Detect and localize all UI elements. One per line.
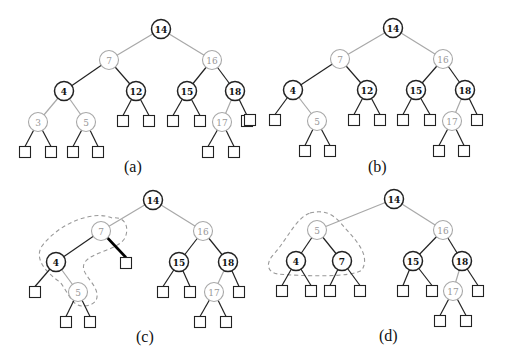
node-key-label: 3 xyxy=(35,118,41,128)
tree-node-7: 7 xyxy=(100,51,119,70)
tree-node-17: 17 xyxy=(443,112,462,131)
tree-node-3: 3 xyxy=(29,113,48,132)
tree-edge xyxy=(317,199,394,230)
tree-node-15: 15 xyxy=(407,81,426,100)
tree-node-17: 17 xyxy=(205,283,224,302)
node-key-label: 7 xyxy=(337,55,343,65)
node-key-label: 4 xyxy=(61,87,67,97)
tree-node-5: 5 xyxy=(69,283,88,302)
nil-leaf-square xyxy=(61,317,72,328)
nil-leaf-square xyxy=(30,287,41,298)
node-key-label: 15 xyxy=(410,86,423,96)
tree-node-14: 14 xyxy=(384,19,403,38)
tree-node-14: 14 xyxy=(385,190,404,209)
tree-node-7: 7 xyxy=(333,252,352,271)
nil-leaf-square xyxy=(398,286,409,297)
node-key-label: 16 xyxy=(206,56,218,66)
nil-leaf-square xyxy=(245,115,256,126)
tree-node-4: 4 xyxy=(284,81,303,100)
panel-caption-0: (a) xyxy=(124,158,142,176)
nil-leaf-square xyxy=(234,287,245,298)
nil-leaf-square xyxy=(195,116,206,127)
node-key-label: 7 xyxy=(98,227,104,237)
tree-node-15: 15 xyxy=(170,253,189,272)
tree-node-4: 4 xyxy=(55,82,74,101)
tree-node-5: 5 xyxy=(77,113,96,132)
node-key-label: 4 xyxy=(290,86,296,96)
tree-node-16: 16 xyxy=(203,51,222,70)
node-key-label: 17 xyxy=(216,118,228,128)
node-key-label: 18 xyxy=(459,86,472,96)
nil-leaf-square xyxy=(277,286,288,297)
node-key-label: 4 xyxy=(293,257,299,267)
nil-leaf-square xyxy=(20,147,31,158)
tree-node-12: 12 xyxy=(127,82,146,101)
tree-node-16: 16 xyxy=(434,221,453,240)
tree-node-12: 12 xyxy=(358,81,377,100)
node-key-label: 4 xyxy=(53,258,59,268)
node-key-label: 15 xyxy=(181,87,194,97)
nil-leaf-square xyxy=(325,286,336,297)
tree-node-17: 17 xyxy=(444,282,463,301)
node-key-label: 16 xyxy=(437,55,449,65)
node-key-label: 15 xyxy=(407,257,420,267)
node-key-label: 14 xyxy=(147,196,160,206)
node-key-label: 14 xyxy=(387,24,400,34)
node-key-label: 12 xyxy=(361,86,374,96)
tree-node-18: 18 xyxy=(453,252,472,271)
nil-leaf-square xyxy=(185,287,196,298)
node-key-label: 5 xyxy=(75,288,81,298)
node-key-label: 14 xyxy=(155,25,168,35)
nil-leaf-square xyxy=(158,287,169,298)
tree-node-7: 7 xyxy=(331,50,350,69)
nil-leaf-square xyxy=(459,146,470,157)
tree-node-16: 16 xyxy=(434,50,453,69)
nil-leaf-square xyxy=(195,317,206,328)
tree-node-5: 5 xyxy=(308,221,327,240)
nil-leaf-square xyxy=(46,147,57,158)
panel-caption-3: (d) xyxy=(379,327,398,345)
nil-leaf-square xyxy=(270,115,281,126)
nil-leaf-square xyxy=(427,286,438,297)
node-key-label: 16 xyxy=(197,227,209,237)
node-key-label: 7 xyxy=(339,257,345,267)
nil-leaf-square xyxy=(221,317,232,328)
nil-leaf-square xyxy=(398,115,409,126)
panel-captions: (a)(b)(c)(d) xyxy=(124,158,398,346)
nil-leaf-square xyxy=(472,115,483,126)
tree-node-4: 4 xyxy=(47,253,66,272)
nil-leaf-square xyxy=(435,316,446,327)
panel-caption-2: (c) xyxy=(136,328,154,346)
nil-leaf-square xyxy=(355,286,366,297)
nil-leaf-square xyxy=(425,115,436,126)
tree-node-15: 15 xyxy=(404,252,423,271)
node-key-label: 17 xyxy=(447,287,459,297)
panel-caption-1: (b) xyxy=(368,158,387,176)
tree-node-18: 18 xyxy=(219,253,238,272)
node-key-label: 14 xyxy=(388,195,401,205)
node-key-label: 12 xyxy=(130,87,143,97)
nil-leaf-square xyxy=(375,115,386,126)
tree-nodes: 1471641215183517147164121518517147164151… xyxy=(20,19,484,328)
nil-leaf-square xyxy=(306,286,317,297)
node-key-label: 7 xyxy=(106,56,112,66)
nil-leaf-square xyxy=(349,115,360,126)
tree-node-18: 18 xyxy=(226,82,245,101)
node-key-label: 18 xyxy=(229,87,242,97)
nil-leaf-square xyxy=(229,147,240,158)
nil-leaf-square xyxy=(144,116,155,127)
tree-node-18: 18 xyxy=(456,81,475,100)
nil-leaf-square xyxy=(68,147,79,158)
tree-node-4: 4 xyxy=(287,252,306,271)
node-key-label: 15 xyxy=(173,258,186,268)
tree-node-14: 14 xyxy=(152,20,171,39)
nil-leaf-square xyxy=(93,147,104,158)
tree-node-14: 14 xyxy=(144,191,163,210)
node-key-label: 5 xyxy=(314,226,320,236)
nil-leaf-square xyxy=(85,317,96,328)
tree-node-17: 17 xyxy=(213,113,232,132)
nil-leaf-square xyxy=(434,146,445,157)
node-key-label: 18 xyxy=(222,258,235,268)
nil-leaf-square xyxy=(203,147,214,158)
nil-leaf-square xyxy=(461,316,472,327)
